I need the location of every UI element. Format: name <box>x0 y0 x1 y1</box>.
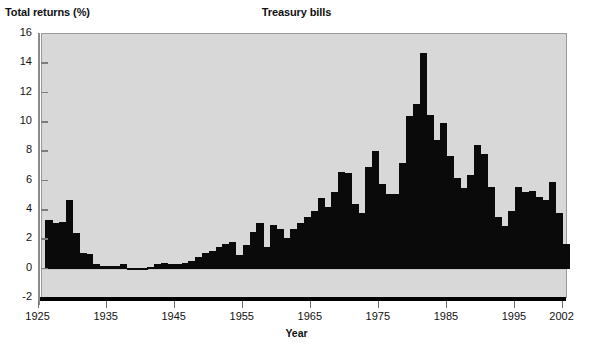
y-tick-mark-8 <box>41 150 48 152</box>
y-tick-mark-4 <box>41 209 48 211</box>
x-tick-label-1995: 1995 <box>502 310 526 322</box>
x-tick-label-1935: 1935 <box>93 310 117 322</box>
bar-2002 <box>563 244 570 269</box>
y-tick-label-2: 2 <box>2 231 32 243</box>
y-tick-label-0: 0 <box>2 261 32 273</box>
x-tick-label-1965: 1965 <box>298 310 322 322</box>
x-tick-label-1975: 1975 <box>366 310 390 322</box>
x-tick-mark-1935 <box>106 301 108 308</box>
y-tick-mark-0 <box>41 268 48 270</box>
y-tick-label-10: 10 <box>2 114 32 126</box>
y-tick-label-4: 4 <box>2 202 32 214</box>
y-tick-mark-14 <box>41 62 48 64</box>
x-tick-mark-1995 <box>514 301 516 308</box>
x-tick-label-2002: 2002 <box>549 310 573 322</box>
y-tick-label-16: 16 <box>2 26 32 38</box>
x-tick-mark-1965 <box>310 301 312 308</box>
x-tick-label-1985: 1985 <box>434 310 458 322</box>
x-tick-mark-2002 <box>562 301 564 308</box>
y-tick-label-12: 12 <box>2 85 32 97</box>
y-tick-mark-6 <box>41 180 48 182</box>
y-tick-label-14: 14 <box>2 55 32 67</box>
x-tick-label-1925: 1925 <box>25 310 49 322</box>
x-tick-label-1955: 1955 <box>230 310 254 322</box>
x-tick-mark-1945 <box>174 301 176 308</box>
y-tick-label--2: -2 <box>2 290 32 302</box>
x-axis-spine <box>40 297 566 301</box>
chart-title: Treasury bills <box>0 6 593 18</box>
x-tick-label-1945: 1945 <box>161 310 185 322</box>
x-tick-mark-1925 <box>38 301 40 308</box>
y-tick-label-8: 8 <box>2 143 32 155</box>
x-tick-mark-1975 <box>378 301 380 308</box>
y-tick-mark-10 <box>41 121 48 123</box>
chart-canvas: Total returns (%) Treasury bills 1614121… <box>0 0 593 348</box>
baseline-fill <box>42 268 566 269</box>
x-tick-mark-1955 <box>242 301 244 308</box>
x-axis-title: Year <box>0 327 593 339</box>
y-tick-mark-12 <box>41 92 48 94</box>
plot-area <box>41 33 567 298</box>
y-tick-label-6: 6 <box>2 173 32 185</box>
x-tick-mark-1985 <box>446 301 448 308</box>
y-tick-mark-2 <box>41 238 48 240</box>
y-axis-spine <box>38 33 40 305</box>
